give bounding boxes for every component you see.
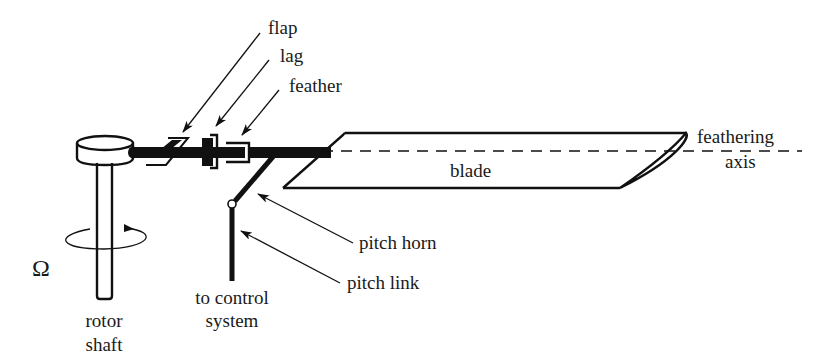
rotor-hinge-diagram: Ω flap lag feather blade bbox=[0, 0, 831, 364]
feathering-axis-label-line1: feathering bbox=[697, 126, 775, 147]
rotor-hub bbox=[77, 136, 133, 165]
pitch-link-leader-arrow bbox=[241, 231, 340, 283]
omega-label: Ω bbox=[32, 255, 50, 281]
rotation-arrow-icon bbox=[66, 224, 146, 249]
flap-label: flap bbox=[268, 17, 298, 38]
blade-label: blade bbox=[450, 160, 491, 181]
feather-label: feather bbox=[289, 75, 342, 96]
rotor-shaft bbox=[97, 163, 112, 299]
lag-label: lag bbox=[280, 45, 304, 66]
feather-leader-arrow bbox=[242, 90, 279, 135]
control-system-label-line2: system bbox=[206, 310, 259, 331]
rotor-shaft-label-line1: rotor bbox=[86, 310, 124, 331]
control-system-label-line1: to control bbox=[195, 287, 268, 308]
feather-hinge bbox=[226, 143, 249, 162]
rotor-shaft-label-line2: shaft bbox=[86, 334, 124, 355]
pitch-link-joint bbox=[228, 200, 236, 208]
feathering-axis-label-line2: axis bbox=[725, 151, 756, 172]
lag-leader-arrow bbox=[216, 60, 269, 126]
flap-leader-arrow bbox=[183, 33, 260, 132]
pitch-horn-leader-arrow bbox=[258, 194, 353, 243]
pitch-horn-label: pitch horn bbox=[359, 232, 437, 253]
pitch-link-label: pitch link bbox=[347, 272, 420, 293]
